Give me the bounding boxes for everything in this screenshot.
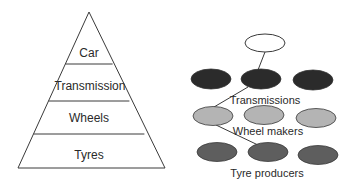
pyramid-level-wheels: Wheels (69, 111, 109, 125)
transmissions-tier: Transmissions (191, 69, 333, 106)
pyramid-level-transmission: Transmission (55, 79, 126, 93)
tyre-producer-node (197, 143, 237, 162)
tier-label-transmissions: Transmissions (230, 94, 301, 106)
transmission-node (241, 69, 281, 89)
pyramid-level-car: Car (79, 46, 98, 60)
tyre-producer-node (248, 143, 288, 162)
tier-label-tyre-producers: Tyre producers (230, 167, 304, 179)
supply-chain-figure: Car Transmission Wheels Tyres Transmissi… (0, 0, 356, 188)
tyre-producer-node (298, 146, 338, 165)
car-maker-node (245, 34, 285, 52)
tier-label-wheel-makers: Wheel makers (233, 125, 304, 137)
connector-line (258, 52, 265, 70)
wheel-makers-tier: Wheel makers (193, 106, 336, 138)
transmission-node (293, 70, 333, 90)
supplier-network: Transmissions Wheel makers Tyre producer… (191, 34, 338, 179)
tyre-producers-tier: Tyre producers (197, 143, 338, 180)
wheel-maker-node (193, 107, 233, 126)
wheel-maker-node (244, 106, 284, 125)
transmission-node (191, 69, 231, 89)
hierarchy-pyramid: Car Transmission Wheels Tyres (18, 12, 165, 168)
pyramid-level-tyres: Tyres (74, 148, 103, 162)
